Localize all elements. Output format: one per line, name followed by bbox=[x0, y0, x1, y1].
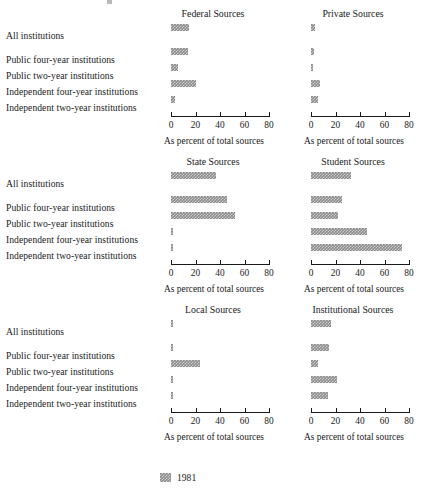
category-label-independent-four-year: Independent four-year institutions bbox=[6, 382, 166, 393]
axis-tick-label: 0 bbox=[169, 120, 174, 131]
bar bbox=[171, 196, 227, 203]
plot-area bbox=[171, 318, 269, 404]
axis-tick bbox=[336, 260, 337, 265]
axis-tick bbox=[220, 112, 221, 117]
category-label-public-two-year: Public two-year institutions bbox=[6, 70, 166, 81]
panel-state-sources: State Sources 020406080 As percent of to… bbox=[165, 156, 295, 304]
bar bbox=[311, 392, 328, 399]
bar bbox=[311, 80, 320, 87]
x-axis-tick-labels: 020406080 bbox=[171, 416, 269, 428]
panel-federal-sources: Federal Sources 020406080 As percent of … bbox=[165, 8, 295, 156]
axis-tick-label: 80 bbox=[404, 268, 413, 279]
category-label-public-four-year: Public four-year institutions bbox=[6, 202, 166, 213]
bar bbox=[311, 96, 318, 103]
axis-tick bbox=[196, 260, 197, 265]
axis-tick-label: 20 bbox=[191, 268, 200, 279]
category-label-public-four-year: Public four-year institutions bbox=[6, 350, 166, 361]
legend-swatch-icon bbox=[160, 473, 171, 482]
x-axis-tick-labels: 020406080 bbox=[171, 120, 269, 132]
axis-tick-label: 60 bbox=[380, 416, 389, 427]
bar bbox=[171, 172, 216, 179]
small-multiples-bar-chart: All institutions Public four-year instit… bbox=[0, 0, 430, 493]
panel-title: Private Sources bbox=[283, 8, 423, 20]
axis-tick bbox=[385, 408, 386, 413]
bar bbox=[311, 228, 367, 235]
bar bbox=[311, 376, 337, 383]
axis-tick-label: 40 bbox=[355, 416, 364, 427]
axis-tick-label: 40 bbox=[355, 268, 364, 279]
x-axis-caption: As percent of total sources bbox=[149, 136, 279, 147]
x-axis-caption: As percent of total sources bbox=[289, 432, 419, 443]
axis-tick bbox=[269, 112, 270, 117]
x-axis-tick-labels: 020406080 bbox=[311, 120, 409, 132]
bar bbox=[311, 320, 331, 327]
axis-tick-label: 0 bbox=[309, 268, 314, 279]
bar bbox=[171, 392, 173, 399]
axis-tick bbox=[196, 408, 197, 413]
bar bbox=[171, 244, 173, 251]
axis-tick-label: 0 bbox=[309, 120, 314, 131]
category-label-independent-two-year: Independent two-year institutions bbox=[6, 102, 166, 113]
bar bbox=[171, 360, 200, 367]
axis-tick bbox=[196, 112, 197, 117]
axis-tick-label: 80 bbox=[264, 416, 273, 427]
axis-tick bbox=[409, 112, 410, 117]
panel-institutional-sources: Institutional Sources 020406080 As perce… bbox=[305, 304, 430, 452]
axis-tick-label: 0 bbox=[309, 416, 314, 427]
category-label-all-institutions: All institutions bbox=[6, 326, 166, 337]
bar bbox=[311, 64, 313, 71]
axis-tick-label: 40 bbox=[215, 120, 224, 131]
bar bbox=[171, 212, 235, 219]
axis-tick-label: 60 bbox=[240, 416, 249, 427]
x-axis-tick-labels: 020406080 bbox=[311, 268, 409, 280]
axis-tick-label: 20 bbox=[331, 120, 340, 131]
bar bbox=[311, 48, 314, 55]
axis-tick bbox=[245, 408, 246, 413]
plot-area bbox=[171, 170, 269, 256]
axis-tick-label: 80 bbox=[264, 120, 273, 131]
axis-tick bbox=[269, 408, 270, 413]
axis-tick bbox=[385, 112, 386, 117]
axis-tick bbox=[311, 408, 312, 413]
axis-tick-label: 0 bbox=[169, 416, 174, 427]
panel-title: Federal Sources bbox=[143, 8, 283, 20]
axis-tick-label: 0 bbox=[169, 268, 174, 279]
plot-area bbox=[311, 22, 409, 108]
bar bbox=[171, 320, 173, 327]
bar bbox=[171, 228, 173, 235]
axis-tick bbox=[171, 260, 172, 265]
axis-tick bbox=[336, 112, 337, 117]
chart-block-row-2: All institutions Public four-year instit… bbox=[0, 156, 430, 304]
bar bbox=[311, 24, 315, 31]
chart-block-row-3: All institutions Public four-year instit… bbox=[0, 304, 430, 452]
axis-tick bbox=[220, 260, 221, 265]
axis-tick-label: 60 bbox=[380, 268, 389, 279]
bar bbox=[171, 64, 178, 71]
bar bbox=[311, 344, 329, 351]
axis-tick bbox=[311, 112, 312, 117]
panel-private-sources: Private Sources 020406080 As percent of … bbox=[305, 8, 430, 156]
axis-tick bbox=[385, 260, 386, 265]
axis-tick bbox=[409, 260, 410, 265]
axis-tick-label: 80 bbox=[404, 416, 413, 427]
axis-tick-label: 40 bbox=[215, 416, 224, 427]
panel-local-sources: Local Sources 020406080 As percent of to… bbox=[165, 304, 295, 452]
panel-title: State Sources bbox=[143, 156, 283, 168]
category-label-public-two-year: Public two-year institutions bbox=[6, 218, 166, 229]
panel-title: Local Sources bbox=[143, 304, 283, 316]
axis-tick bbox=[360, 408, 361, 413]
bar bbox=[171, 376, 173, 383]
panel-title: Student Sources bbox=[283, 156, 423, 168]
plot-area bbox=[171, 22, 269, 108]
bar bbox=[311, 212, 338, 219]
x-axis-tick-labels: 020406080 bbox=[311, 416, 409, 428]
axis-tick bbox=[171, 112, 172, 117]
panel-student-sources: Student Sources 020406080 As percent of … bbox=[305, 156, 430, 304]
category-label-independent-four-year: Independent four-year institutions bbox=[6, 234, 166, 245]
panel-title: Institutional Sources bbox=[283, 304, 423, 316]
category-label-independent-two-year: Independent two-year institutions bbox=[6, 398, 166, 409]
bar bbox=[311, 244, 402, 251]
bar bbox=[311, 172, 351, 179]
axis-tick bbox=[311, 260, 312, 265]
legend: 1981 bbox=[160, 472, 196, 483]
